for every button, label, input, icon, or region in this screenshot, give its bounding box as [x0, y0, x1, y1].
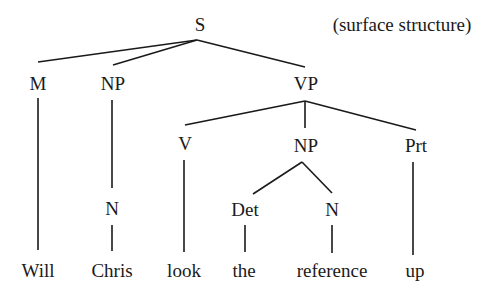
word-reference: reference	[297, 261, 368, 280]
word-will: Will	[21, 261, 54, 280]
edge-vp-prt	[305, 101, 416, 130]
syntax-tree-diagram: S (surface structure) M NP VP V NP Prt N…	[0, 0, 491, 299]
node-prt: Prt	[405, 136, 427, 155]
node-np-object: NP	[294, 136, 318, 155]
edge-s-vp	[197, 40, 305, 67]
surface-structure-annotation: (surface structure)	[333, 15, 472, 34]
word-the: the	[232, 261, 255, 280]
node-det: Det	[231, 200, 258, 219]
word-chris: Chris	[91, 261, 132, 280]
edge-vp-v	[185, 101, 305, 125]
node-vp: VP	[294, 74, 318, 93]
node-s: S	[195, 15, 206, 34]
word-up: up	[406, 261, 425, 280]
node-v: V	[178, 134, 192, 153]
node-n-object: N	[325, 200, 339, 219]
node-m: M	[30, 74, 47, 93]
word-look: look	[167, 261, 201, 280]
edge-np-det	[253, 162, 302, 194]
edge-s-np	[113, 40, 197, 65]
node-np-subject: NP	[101, 74, 125, 93]
edge-s-m	[38, 40, 197, 62]
node-n-subject: N	[105, 199, 119, 218]
edge-np-n2	[302, 162, 332, 193]
